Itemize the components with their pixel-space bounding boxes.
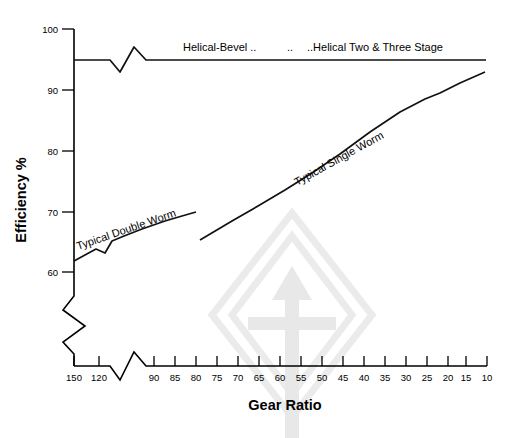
x-axis-tick-labels: 150 120 90 85 80 75 70 65 60 55 50 45 40… [66,372,492,383]
xtick-label: 40 [359,372,370,383]
annotation-ellipsis: .. [287,41,293,53]
xtick-label: 75 [212,372,223,383]
annotation-helical-two-three-stage: ..Helical Two & Three Stage [307,41,443,53]
xtick-label: 20 [443,372,454,383]
xtick-label: 30 [401,372,412,383]
xtick-label: 50 [317,372,328,383]
xtick-label: 150 [66,372,82,383]
ytick-label: 70 [47,207,58,218]
ytick-label: 100 [42,24,58,35]
xtick-label: 35 [380,372,391,383]
x-axis-ticks [74,356,487,366]
xtick-label: 120 [91,372,107,383]
xtick-label: 55 [296,372,307,383]
xtick-label: 65 [254,372,265,383]
xtick-label: 10 [482,372,493,383]
xtick-label: 70 [233,372,244,383]
x-axis-title: Gear Ratio [248,397,321,413]
ytick-label: 60 [47,267,58,278]
y-axis-ticks [62,29,74,272]
annotation-helical-bevel: Helical-Bevel .. [183,41,256,53]
xtick-label: 80 [191,372,202,383]
xtick-label: 15 [461,372,472,383]
xtick-label: 60 [275,372,286,383]
efficiency-vs-gear-ratio-chart: 100 90 80 70 60 [0,0,512,438]
y-axis-title: Efficiency % [13,157,29,243]
y-axis-line [63,29,85,366]
annotation-typical-double-worm: Typical Double Worm [75,207,178,252]
xtick-label: 45 [338,372,349,383]
ytick-label: 90 [47,85,58,96]
plot-area: 100 90 80 70 60 [0,0,512,438]
ytick-label: 80 [47,146,58,157]
xtick-label: 85 [170,372,181,383]
xtick-label: 25 [422,372,433,383]
y-axis-tick-labels: 100 90 80 70 60 [42,24,58,278]
xtick-label: 90 [149,372,160,383]
annotation-typical-single-worm: Typical Single Worm [292,129,385,188]
